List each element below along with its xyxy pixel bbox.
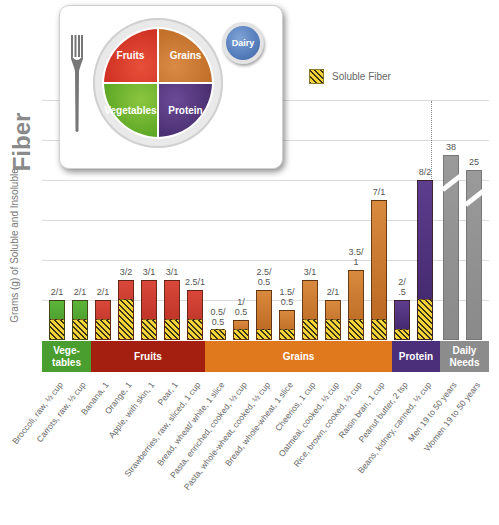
soluble-segment <box>372 319 386 339</box>
bar-value-label: 2/1 <box>313 287 353 297</box>
bar <box>95 300 111 340</box>
soluble-segment <box>349 319 363 339</box>
bar <box>348 270 364 340</box>
legend-label: Soluble Fiber <box>332 71 391 82</box>
bar <box>164 280 180 340</box>
category-protein: Protein <box>392 341 440 372</box>
soluble-segment <box>119 299 133 339</box>
bar-value-label: 1.5/0.5 <box>267 287 307 307</box>
y-axis-title: Fiber Grams (g) of Soluble and Insoluble <box>4 100 44 340</box>
bar <box>49 300 65 340</box>
bar <box>443 155 459 340</box>
bar <box>466 170 482 340</box>
bar-value-label: 2.5/0.5 <box>244 267 284 287</box>
soluble-segment <box>257 329 271 339</box>
bar-value-label: 3/1 <box>290 267 330 277</box>
soluble-segment <box>395 329 409 339</box>
soluble-segment <box>142 319 156 339</box>
bar <box>72 300 88 340</box>
soluble-segment <box>326 319 340 339</box>
bar <box>233 320 249 340</box>
fork-icon <box>70 35 84 133</box>
category-vegetables: Vege-tables <box>42 341 91 372</box>
soluble-fiber-swatch <box>309 69 324 84</box>
category-grains: Grains <box>205 341 392 372</box>
soluble-segment <box>165 319 179 339</box>
bar <box>325 300 341 340</box>
category-dailyneeds: DailyNeeds <box>440 341 489 372</box>
bar <box>417 180 433 340</box>
category-fruits: Fruits <box>91 341 205 372</box>
bar-value-label: 7/1 <box>359 187 399 197</box>
soluble-segment <box>303 319 317 339</box>
soluble-segment <box>418 299 432 339</box>
soluble-segment <box>96 319 110 339</box>
bar-value-label: 3.5/1 <box>336 247 376 267</box>
axis-break-mark <box>464 188 486 207</box>
plate-dairy-cup: Dairy <box>222 22 264 64</box>
plate-dairy: Dairy <box>226 26 260 60</box>
bar <box>279 310 295 340</box>
bar <box>118 280 134 340</box>
soluble-segment <box>211 329 225 339</box>
bar <box>210 330 226 340</box>
soluble-segment <box>280 329 294 339</box>
bar-value-label: 25 <box>454 157 494 167</box>
bar-value-label: 2.5/1 <box>175 277 215 287</box>
bar-value-label: 2/.5 <box>382 277 422 297</box>
axis-break-mark <box>441 173 463 192</box>
bar-value-label: 1/0.5 <box>221 297 261 317</box>
bar-value-label: 3/1 <box>152 267 192 277</box>
bar-value-label: 2/1 <box>83 287 123 297</box>
y-axis-label: Grams (g) of Soluble and Insoluble <box>9 136 20 356</box>
bar <box>371 200 387 340</box>
bar <box>141 280 157 340</box>
soluble-segment <box>234 329 248 339</box>
bar-value-label: 8/2 <box>405 167 445 177</box>
bar-value-label: 38 <box>431 142 471 152</box>
legend: Soluble Fiber <box>309 69 391 84</box>
bar <box>394 300 410 340</box>
soluble-segment <box>73 319 87 339</box>
soluble-segment <box>50 319 64 339</box>
myplate: Fruits Grains Vegetables Protein <box>93 18 223 148</box>
